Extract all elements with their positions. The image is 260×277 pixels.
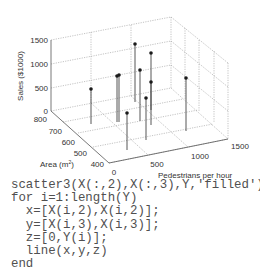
code-line: scatter3(X(:,2),X(:,3),Y,'filled') <box>11 178 260 192</box>
code-line: x=[X(i,2),X(i,2)]; <box>11 204 160 218</box>
code-line: z=[0,Y(i)]; <box>11 231 108 245</box>
data-point <box>133 42 137 46</box>
x-tick: 1000 <box>191 152 209 161</box>
data-point <box>149 51 153 55</box>
y-tick: 800 <box>34 115 48 124</box>
data-point <box>144 96 148 100</box>
grid-lines <box>51 17 228 163</box>
data-point <box>89 87 93 91</box>
code-line: y=[X(i,3),X(i,3)]; <box>11 218 160 232</box>
data-point <box>149 80 153 84</box>
axes <box>51 40 228 163</box>
code-line: for i=1:length(Y) <box>11 191 137 205</box>
stems <box>91 44 186 150</box>
y-axis-label: Area (m2) <box>40 159 74 169</box>
y-tick: 500 <box>74 149 88 158</box>
data-point <box>125 111 129 115</box>
z-tick: 1500 <box>30 36 48 45</box>
data-point <box>138 68 142 72</box>
code-line: line(x,y,z) <box>11 244 108 258</box>
x-tick: 1500 <box>231 142 249 151</box>
z-axis-label: Sales ($1000) <box>16 51 25 101</box>
x-tick: 0 <box>112 168 117 177</box>
y-tick: 400 <box>91 160 105 169</box>
z-tick: 1000 <box>30 60 48 69</box>
y-tick: 600 <box>62 138 76 147</box>
data-point <box>184 76 188 80</box>
z-tick: 500 <box>35 84 49 93</box>
x-tick: 500 <box>150 160 164 169</box>
data-point <box>117 73 121 77</box>
code-snippet: scatter3(X(:,2),X(:,3),Y,'filled') for i… <box>11 179 260 271</box>
y-tick: 700 <box>49 127 63 136</box>
scatter3d-chart: 1500 1000 500 0 800 700 600 500 400 0 50… <box>0 0 260 180</box>
code-line: end <box>11 257 33 271</box>
data-points <box>89 42 188 115</box>
